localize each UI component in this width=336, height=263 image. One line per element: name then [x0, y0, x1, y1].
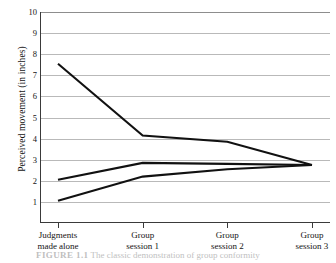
x-tick-label-0-line-1: made alone [37, 241, 78, 252]
figure-caption-text: The classic demonstration of group confo… [91, 250, 260, 260]
y-tick-label-8: 8 [33, 49, 37, 59]
x-tick-mark-3 [312, 222, 313, 228]
x-tick-label-0-line-0: Judgments [37, 230, 78, 241]
series-line-2 [58, 165, 312, 201]
y-tick-label-6: 6 [33, 91, 37, 101]
x-tick-label-3-line-1: session 3 [296, 241, 329, 252]
y-tick-label-4: 4 [33, 134, 37, 144]
x-tick-label-3: Groupsession 3 [296, 230, 329, 251]
x-tick-mark-1 [143, 222, 144, 228]
y-tick-label-1: 1 [33, 197, 37, 207]
series-line-0 [58, 64, 312, 165]
series-line-1 [58, 163, 312, 180]
y-tick-label-3: 3 [33, 155, 37, 165]
figure-caption: FIGURE 1.1 The classic demonstration of … [36, 250, 332, 261]
x-tick-mark-0 [58, 222, 59, 228]
x-tick-label-2-line-0: Group [211, 230, 244, 241]
x-tick-label-0: Judgmentsmade alone [37, 230, 78, 251]
figure-caption-label: FIGURE 1.1 [36, 250, 89, 260]
x-tick-mark-2 [227, 222, 228, 228]
x-tick-label-3-line-0: Group [296, 230, 329, 241]
x-tick-label-1-line-1: session 1 [126, 241, 159, 252]
y-tick-label-2: 2 [33, 176, 37, 186]
y-axis-title: Perceived movement (in inches) [17, 9, 27, 209]
y-tick-label-10: 10 [29, 7, 38, 17]
y-tick-label-9: 9 [33, 28, 37, 38]
y-tick-label-7: 7 [33, 70, 37, 80]
x-tick-label-1-line-0: Group [126, 230, 159, 241]
data-lines-group [40, 12, 330, 223]
y-tick-label-5: 5 [33, 113, 37, 123]
x-tick-label-2: Groupsession 2 [211, 230, 244, 251]
x-tick-label-2-line-1: session 2 [211, 241, 244, 252]
figure-autokinetic-conformity-chart: Perceived movement (in inches) 123456789… [0, 0, 336, 263]
x-tick-label-1: Groupsession 1 [126, 230, 159, 251]
